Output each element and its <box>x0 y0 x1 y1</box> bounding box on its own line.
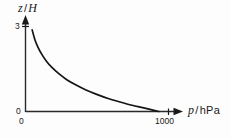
data-curve-exponential-decay <box>32 30 159 112</box>
y-tick-label-3: 3 <box>15 21 20 31</box>
y-axis-unit: H <box>28 1 37 15</box>
plot-canvas <box>0 0 230 139</box>
figure-container: z/H p/hPa 3 0 0 1000 <box>0 0 230 139</box>
x-axis-unit: hPa <box>200 104 220 116</box>
y-axis-arrow-icon <box>22 15 29 25</box>
x-axis-arrow-icon <box>174 108 184 115</box>
y-axis-label: z/H <box>18 1 37 16</box>
x-tick-label-1000: 1000 <box>155 116 174 126</box>
x-tick-label-0: 0 <box>19 116 24 126</box>
x-axis-label: p/hPa <box>188 103 220 118</box>
y-tick-label-0: 0 <box>16 106 21 116</box>
y-axis <box>22 15 29 112</box>
